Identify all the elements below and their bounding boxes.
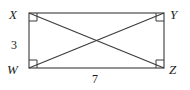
vertex-label-z: Z	[169, 63, 176, 76]
measure-label-bottom-side: 7	[92, 73, 98, 85]
vertex-label-w: W	[7, 63, 18, 76]
measure-label-left-side: 3	[11, 39, 17, 51]
vertex-label-y: Y	[170, 8, 177, 21]
vertex-label-x: X	[9, 8, 17, 21]
geometry-figure-canvas: X Y W Z 3 7	[0, 0, 190, 90]
